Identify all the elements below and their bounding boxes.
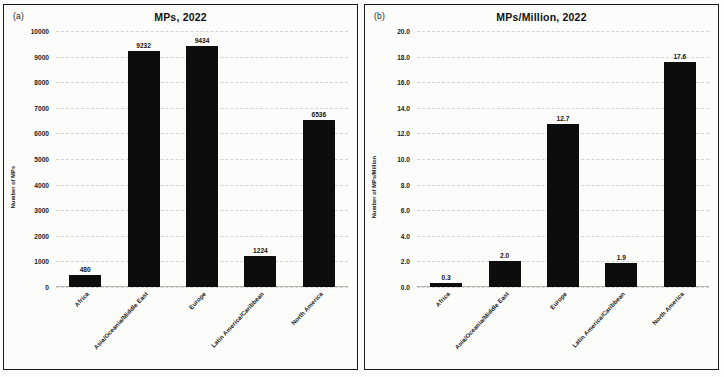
figure-container: (a) MPs, 2022 Number of MPs 100009000800… bbox=[0, 0, 724, 377]
bar-slot: 0.3 bbox=[417, 31, 475, 287]
bar-value-label: 17.6 bbox=[673, 53, 686, 60]
bar-slot: 480 bbox=[56, 31, 114, 287]
x-axis-label-slot: Latin America/Caribbean bbox=[592, 288, 650, 368]
bar-group: 0.32.012.71.917.6 bbox=[417, 31, 709, 287]
y-axis-tick-label: 10000 bbox=[31, 28, 49, 35]
bar[interactable]: 9434 bbox=[186, 46, 218, 288]
x-axis-label-slot: Asia/Oceania/Middle East bbox=[114, 288, 172, 368]
x-axis-category-label: Europe bbox=[548, 290, 568, 311]
chart-title-b: MPs/Million, 2022 bbox=[365, 11, 718, 23]
bar-value-label: 2.0 bbox=[500, 252, 509, 259]
x-axis-label-slot: Europe bbox=[534, 288, 592, 368]
y-axis-tick-label: 8000 bbox=[34, 79, 49, 86]
x-axis-label-slot: Latin America/Caribbean bbox=[231, 288, 289, 368]
y-axis-tick-label: 7000 bbox=[34, 104, 49, 111]
bar[interactable]: 0.3 bbox=[430, 283, 462, 287]
y-axis-tick-label: 3000 bbox=[34, 207, 49, 214]
bar[interactable]: 1.9 bbox=[605, 263, 637, 287]
bar[interactable]: 1224 bbox=[244, 256, 276, 287]
x-axis-label-slot: Asia/Oceania/Middle East bbox=[475, 288, 533, 368]
bar-slot: 2.0 bbox=[475, 31, 533, 287]
x-axis-label-slot: Europe bbox=[173, 288, 231, 368]
y-axis-title-a: Number of MPs bbox=[6, 5, 20, 369]
y-axis-tick-label: 1000 bbox=[34, 258, 49, 265]
y-axis-tick-label: 2.0 bbox=[401, 258, 410, 265]
y-axis-tick-label: 16.0 bbox=[397, 79, 410, 86]
bar-value-label: 9434 bbox=[195, 37, 210, 44]
bar-value-label: 1.9 bbox=[617, 254, 626, 261]
bar-slot: 1.9 bbox=[592, 31, 650, 287]
bar-slot: 12.7 bbox=[534, 31, 592, 287]
bar-slot: 17.6 bbox=[651, 31, 709, 287]
bar[interactable]: 6536 bbox=[303, 120, 335, 287]
y-axis-tick-label: 10.0 bbox=[397, 156, 410, 163]
bar[interactable]: 9232 bbox=[128, 51, 160, 287]
chart-title-a: MPs, 2022 bbox=[4, 11, 357, 23]
y-axis-tick-label: 9000 bbox=[34, 53, 49, 60]
x-axis-category-label: Africa bbox=[434, 290, 451, 308]
bar-value-label: 6536 bbox=[311, 111, 326, 118]
bar-value-label: 12.7 bbox=[557, 115, 570, 122]
bar[interactable]: 17.6 bbox=[664, 62, 696, 287]
y-axis-tick-label: 0.0 bbox=[401, 284, 410, 291]
x-axis-label-slot: North America bbox=[290, 288, 348, 368]
y-axis-tick-label: 6.0 bbox=[401, 207, 410, 214]
bar-value-label: 1224 bbox=[253, 247, 268, 254]
y-axis-tick-label: 8.0 bbox=[401, 181, 410, 188]
bar-value-label: 480 bbox=[80, 266, 91, 273]
x-axis-labels-b: AfricaAsia/Oceania/Middle EastEuropeLati… bbox=[417, 288, 709, 368]
x-axis-category-label: North America bbox=[650, 290, 684, 326]
plot-area-b: 20.018.016.014.012.010.08.06.04.02.00.00… bbox=[417, 31, 709, 287]
bar-slot: 9434 bbox=[173, 31, 231, 287]
x-axis-category-label: Africa bbox=[73, 290, 90, 308]
y-axis-tick-label: 18.0 bbox=[397, 53, 410, 60]
y-axis-tick-label: 5000 bbox=[34, 156, 49, 163]
bar-value-label: 0.3 bbox=[442, 274, 451, 281]
x-axis-label-slot: Africa bbox=[417, 288, 475, 368]
y-axis-tick-label: 4000 bbox=[34, 181, 49, 188]
y-axis-tick-label: 6000 bbox=[34, 130, 49, 137]
x-axis-category-label: Europe bbox=[187, 290, 207, 311]
chart-panel-b: (b) MPs/Million, 2022 Number of MPs/Mill… bbox=[364, 4, 719, 370]
x-axis-category-label: North America bbox=[289, 290, 323, 326]
y-axis-tick-label: 12.0 bbox=[397, 130, 410, 137]
x-axis-label-slot: Africa bbox=[56, 288, 114, 368]
y-axis-title-label-b: Number of MPs/Million bbox=[371, 156, 377, 218]
y-axis-tick-label: 0 bbox=[45, 284, 49, 291]
y-axis-title-label-a: Number of MPs bbox=[10, 166, 16, 208]
y-axis-tick-label: 20.0 bbox=[397, 28, 410, 35]
chart-panel-a: (a) MPs, 2022 Number of MPs 100009000800… bbox=[3, 4, 358, 370]
y-axis-title-b: Number of MPs/Million bbox=[367, 5, 381, 369]
bar[interactable]: 12.7 bbox=[547, 124, 579, 287]
bar-value-label: 9232 bbox=[136, 42, 151, 49]
bar-slot: 1224 bbox=[231, 31, 289, 287]
y-axis-tick-label: 4.0 bbox=[401, 232, 410, 239]
x-axis-labels-a: AfricaAsia/Oceania/Middle EastEuropeLati… bbox=[56, 288, 348, 368]
bar[interactable]: 2.0 bbox=[489, 261, 521, 287]
bar-slot: 9232 bbox=[114, 31, 172, 287]
bar-group: 4809232943412246536 bbox=[56, 31, 348, 287]
bar-slot: 6536 bbox=[290, 31, 348, 287]
x-axis-label-slot: North America bbox=[651, 288, 709, 368]
y-axis-tick-label: 2000 bbox=[34, 232, 49, 239]
y-axis-tick-label: 14.0 bbox=[397, 104, 410, 111]
plot-area-a: 1000090008000700060005000400030002000100… bbox=[56, 31, 348, 287]
bar[interactable]: 480 bbox=[69, 275, 101, 287]
